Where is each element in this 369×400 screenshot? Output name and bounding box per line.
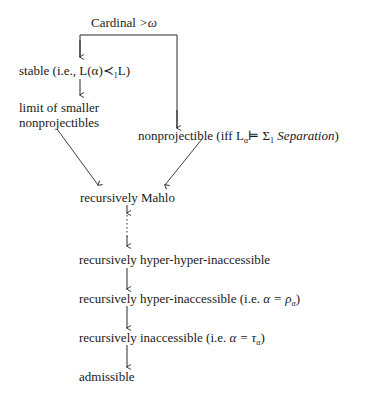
- hyper-tail: ): [296, 291, 300, 306]
- edge-nonprojectible-to-mahlo: [165, 139, 202, 185]
- node-stable: stable (i.e., L(α)≺1L): [19, 63, 130, 78]
- limit-line1: limit of smaller: [19, 100, 99, 115]
- cardinal-label: Cardinal: [91, 15, 136, 30]
- hyperhyper-label: recursively hyper-hyper-inaccessible: [79, 252, 270, 267]
- inaccessible-tail: ): [260, 330, 264, 345]
- hyper-label: recursively hyper-inaccessible (i.e.: [79, 291, 260, 306]
- inaccessible-math: α = τ: [230, 330, 257, 345]
- edge-limit-to-mahlo: [57, 129, 98, 185]
- limit-line2: nonprojectibles: [19, 115, 99, 130]
- nonprojectible-separation: Separation: [277, 128, 334, 143]
- admissible-label: admissible: [79, 369, 135, 384]
- mahlo-label: recursively Mahlo: [80, 190, 175, 205]
- nonprojectible-sigma-sub: 1: [270, 136, 274, 145]
- cardinal-math: >ω: [139, 15, 157, 30]
- nonprojectible-tail: ): [334, 128, 338, 143]
- nonprojectible-math-rel: ⊨ Σ: [248, 128, 270, 143]
- stable-tail: L): [118, 63, 130, 78]
- stable-math: L(α)≺: [79, 63, 113, 78]
- node-inaccessible: recursively inaccessible (i.e. α = τα): [79, 330, 265, 345]
- inaccessible-label: recursively inaccessible (i.e.: [79, 330, 226, 345]
- node-nonprojectible: nonprojectible (iff Lα⊨ Σ1 Separation): [138, 128, 339, 143]
- node-hyper: recursively hyper-inaccessible (i.e. α =…: [79, 291, 300, 306]
- node-hyperhyper: recursively hyper-hyper-inaccessible: [79, 252, 270, 267]
- nonprojectible-math-l: L: [236, 128, 244, 143]
- node-limit: limit of smaller nonprojectibles: [19, 100, 99, 130]
- node-admissible: admissible: [79, 369, 135, 384]
- node-cardinal: Cardinal >ω: [91, 15, 157, 30]
- stable-label: stable (i.e.,: [19, 63, 76, 78]
- nonprojectible-label: nonprojectible (iff: [138, 128, 233, 143]
- node-mahlo: recursively Mahlo: [80, 190, 175, 205]
- hyper-math: α = ρ: [263, 291, 291, 306]
